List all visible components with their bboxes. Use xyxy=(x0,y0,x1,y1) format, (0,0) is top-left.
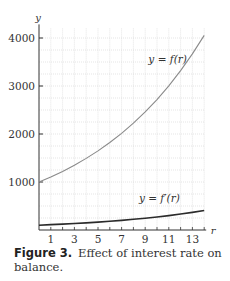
x-tick-label: 7 xyxy=(118,233,125,245)
x-tick-label: 5 xyxy=(95,233,102,245)
chart: yr 1000200030004000135791113 y = f(r)y =… xyxy=(0,0,230,245)
x-tick-label: 3 xyxy=(71,233,78,245)
x-tick-label: 13 xyxy=(186,233,199,245)
y-tick-label: 2000 xyxy=(8,128,35,140)
figure-caption: Figure 3.Effect of interest rate on bala… xyxy=(14,246,226,274)
axes: yr xyxy=(34,12,217,236)
x-axis-label: r xyxy=(211,225,217,236)
x-tick-label: 11 xyxy=(162,233,175,245)
y-tick-label: 4000 xyxy=(8,32,35,44)
x-tick-label: 9 xyxy=(142,233,149,245)
figure-number: Figure 3. xyxy=(14,246,72,260)
label-f-prime-of-r: y = f′(r) xyxy=(138,192,180,204)
x-tick-label: 1 xyxy=(47,233,54,245)
y-axis-label: y xyxy=(34,12,41,23)
y-tick-label: 3000 xyxy=(8,80,35,92)
label-f-of-r: y = f(r) xyxy=(147,53,187,65)
y-tick-label: 1000 xyxy=(8,176,35,188)
